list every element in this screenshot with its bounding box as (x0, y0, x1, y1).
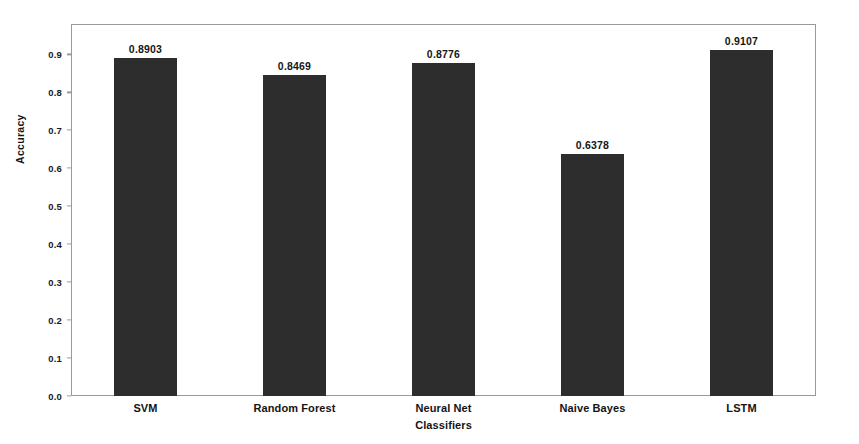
y-axis-ticks: 0.00.10.20.30.40.50.60.70.80.9 (0, 24, 71, 396)
y-axis-tick-label: 0.7 (48, 125, 62, 136)
x-axis-ticks: SVMRandom ForestNeural NetNaive BayesLST… (71, 398, 816, 438)
bar (561, 154, 624, 396)
bar-group: 0.8776 (412, 24, 475, 396)
y-axis-tick-label: 0.4 (48, 239, 62, 250)
x-axis-tick-label: LSTM (726, 402, 756, 414)
y-axis-tick-label: 0.2 (48, 315, 62, 326)
y-axis-tick-label: 0.0 (48, 391, 62, 402)
x-axis-tick-label: Random Forest (254, 402, 336, 414)
y-axis-tick-label: 0.9 (48, 49, 62, 60)
x-axis-label: Classifiers (71, 419, 816, 431)
bar-value-label: 0.8469 (278, 60, 311, 72)
bar-value-label: 0.8776 (427, 48, 460, 60)
bar-value-label: 0.6378 (576, 139, 609, 151)
bar-group: 0.6378 (561, 24, 624, 396)
y-axis-tick-label: 0.5 (48, 201, 62, 212)
bar (412, 63, 475, 396)
x-axis-tick-label: Naive Bayes (560, 402, 626, 414)
x-axis-tick-label: Neural Net (415, 402, 471, 414)
bar-group: 0.9107 (710, 24, 773, 396)
bar-value-label: 0.9107 (725, 35, 758, 47)
y-axis-tick-label: 0.6 (48, 163, 62, 174)
y-axis-tick-label: 0.1 (48, 353, 62, 364)
bar-value-label: 0.8903 (129, 43, 162, 55)
bar-group: 0.8903 (114, 24, 177, 396)
bar (710, 50, 773, 396)
y-axis-tick-label: 0.8 (48, 87, 62, 98)
bar-group: 0.8469 (263, 24, 326, 396)
y-axis-label: Accuracy (14, 114, 26, 164)
bar (114, 58, 177, 396)
bar-chart-figure: 0.00.10.20.30.40.50.60.70.80.9 Accuracy … (0, 0, 859, 444)
y-axis-tick-label: 0.3 (48, 277, 62, 288)
bar (263, 75, 326, 396)
bars-layer: 0.89030.84690.87760.63780.9107 (71, 24, 816, 396)
x-axis-tick-label: SVM (133, 402, 157, 414)
